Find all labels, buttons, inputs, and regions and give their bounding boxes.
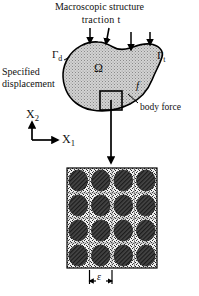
label-body-force: body force xyxy=(140,103,181,113)
label-epsilon: ε xyxy=(97,272,101,283)
label-macroscopic-structure: Macroscopic structure xyxy=(55,2,144,13)
axis-x1-subscript: 1 xyxy=(71,138,75,148)
label-gamma-d: Γd xyxy=(52,49,62,64)
label-omega-domain: Ω xyxy=(94,62,103,75)
label-traction: traction t xyxy=(82,15,121,26)
figure-vector-layer xyxy=(0,0,199,296)
axis-x2-subscript: 2 xyxy=(35,113,39,123)
axis-x2-symbol: X xyxy=(26,107,35,121)
axis-x1-symbol: X xyxy=(62,132,71,146)
label-specified-displacement: Specified displacement xyxy=(2,66,64,89)
label-axis-x2: X2 xyxy=(26,108,39,123)
omega-domain-blob xyxy=(63,42,162,111)
representative-volume-element xyxy=(67,168,157,268)
label-body-force-symbol: f xyxy=(136,80,139,92)
gamma-t-subscript: t xyxy=(163,55,165,64)
coordinate-axes xyxy=(32,122,58,140)
label-axis-x1: X1 xyxy=(62,133,75,148)
gamma-d-subscript: d xyxy=(58,54,62,63)
figure-canvas: Macroscopic structure traction t Γd Γt S… xyxy=(0,0,199,296)
label-gamma-t: Γt xyxy=(157,50,166,65)
